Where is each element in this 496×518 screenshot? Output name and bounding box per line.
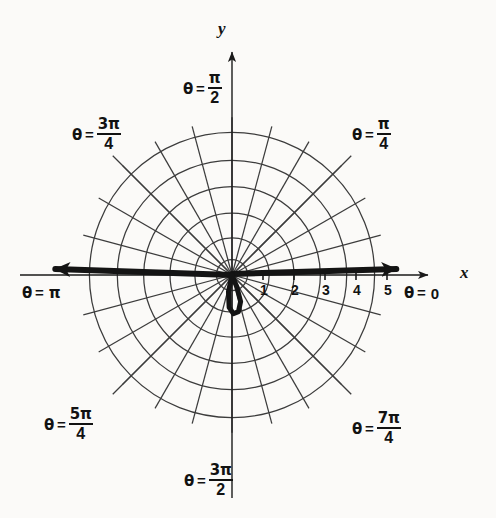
theta-symbol: θ <box>183 82 193 97</box>
angle-label-theta-pi-4: θ=π4 <box>352 118 391 153</box>
angle-label-theta-3pi-4: θ=3π4 <box>72 118 121 153</box>
y-axis-label: y <box>218 20 225 37</box>
radial-tick-label-3: 3 <box>322 283 330 297</box>
grid-spoke-75deg <box>232 126 272 275</box>
fraction-denominator: 2 <box>215 481 226 498</box>
equals-symbol: = <box>365 421 374 436</box>
polar-figure: y x θ=0θ=π4θ=π2θ=3π4θ=πθ=5π4θ=3π2θ=7π4 1… <box>0 0 496 518</box>
fraction-numerator: 3π <box>209 463 233 479</box>
angle-label-theta-pi-2: θ=π2 <box>183 72 222 107</box>
grid-spoke-120deg <box>155 142 232 275</box>
angle-fraction: 3π2 <box>209 463 233 498</box>
equals-symbol: = <box>85 127 94 142</box>
theta-symbol: θ <box>352 422 362 437</box>
theta-symbol: θ <box>72 128 82 143</box>
grid-spoke-60deg <box>232 142 309 275</box>
equals-symbol: = <box>365 127 374 142</box>
angle-fraction: 7π4 <box>377 411 401 446</box>
curve-inner-loop <box>228 275 240 314</box>
angle-label-theta-3pi-2: θ=3π2 <box>184 464 233 499</box>
equals-symbol: = <box>197 473 206 488</box>
grid-spoke-255deg <box>192 275 232 424</box>
fraction-denominator: 4 <box>103 135 114 152</box>
fraction-denominator: 4 <box>378 135 389 152</box>
angle-label-theta-7pi-4: θ=7π4 <box>352 412 401 447</box>
angle-label-theta-pi: θ=π <box>22 286 60 301</box>
angle-fraction: π4 <box>377 117 391 152</box>
radial-tick-label-2: 2 <box>291 283 299 297</box>
theta-symbol: θ <box>44 418 54 433</box>
fraction-numerator: 7π <box>377 411 401 427</box>
angle-value: π <box>49 286 61 301</box>
fraction-denominator: 4 <box>75 425 86 442</box>
curve-ray-negative-x <box>55 269 232 275</box>
angle-label-theta-0: θ=0 <box>404 286 439 301</box>
angle-fraction: π2 <box>208 71 222 106</box>
equals-symbol: = <box>57 417 66 432</box>
fraction-denominator: 4 <box>383 429 394 446</box>
grid-spoke-150deg <box>99 198 232 275</box>
fraction-numerator: π <box>377 117 391 133</box>
grid-spoke-30deg <box>232 198 365 275</box>
theta-symbol: θ <box>352 128 362 143</box>
radial-tick-label-1: 1 <box>260 283 268 297</box>
theta-symbol: θ <box>22 286 32 301</box>
theta-symbol: θ <box>184 474 194 489</box>
grid-spoke-240deg <box>155 275 232 408</box>
equals-symbol: = <box>417 285 426 300</box>
fraction-numerator: 3π <box>97 117 121 133</box>
radial-tick-label-4: 4 <box>353 283 361 297</box>
equals-symbol: = <box>35 285 44 300</box>
fraction-denominator: 2 <box>209 89 220 106</box>
x-axis-label: x <box>460 264 468 281</box>
angle-label-theta-5pi-4: θ=5π4 <box>44 408 93 443</box>
fraction-numerator: π <box>208 71 222 87</box>
angle-value: 0 <box>431 286 439 301</box>
curve-ray-positive-x <box>232 269 396 274</box>
fraction-numerator: 5π <box>69 407 93 423</box>
grid-spoke-195deg <box>83 275 232 315</box>
theta-symbol: θ <box>404 286 414 301</box>
angle-fraction: 5π4 <box>69 407 93 442</box>
grid-spoke-105deg <box>192 126 232 275</box>
equals-symbol: = <box>196 81 205 96</box>
angle-fraction: 3π4 <box>97 117 121 152</box>
grid-spoke-210deg <box>99 275 232 352</box>
radial-tick-label-5: 5 <box>384 283 392 297</box>
